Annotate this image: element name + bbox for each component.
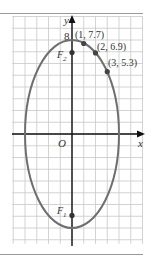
point-1-7.7 xyxy=(81,41,86,46)
point-label-2: (2, 6.9) xyxy=(97,41,126,53)
focus-f2 xyxy=(69,50,74,55)
ellipse-diagram: y 8 (1, 7.7) (2, 6.9) (3, 5.3) F2 F1 O x xyxy=(0,0,152,262)
point-label-1: (1, 7.7) xyxy=(75,29,104,41)
y-tick-8: 8 xyxy=(64,30,70,42)
point-3-5.3 xyxy=(105,69,110,74)
focus-f1 xyxy=(69,213,74,218)
focus-f1-label: F1 xyxy=(56,205,67,219)
focus-f2-label: F2 xyxy=(56,49,67,63)
point-label-3: (3, 5.3) xyxy=(108,57,137,69)
x-axis-label: x xyxy=(137,137,143,149)
origin-label: O xyxy=(58,137,66,149)
y-axis-label: y xyxy=(63,14,69,26)
